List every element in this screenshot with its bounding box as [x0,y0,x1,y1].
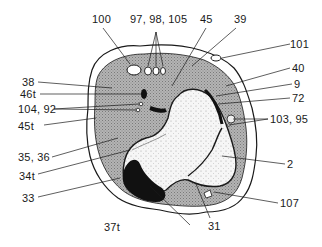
label-34t: 34t [19,170,35,182]
label-38: 38 [22,76,35,88]
label-72: 72 [292,92,305,104]
label-2: 2 [287,158,293,170]
label-104-92: 104, 92 [18,103,56,115]
label-46t: 46t [20,88,36,100]
label-45t: 45t [18,120,34,132]
label-97-98-105: 97, 98, 105 [130,13,187,25]
cross-section-diagram: 100 97, 98, 105 45 39 101 40 9 72 103, 9… [0,0,322,247]
label-107: 107 [280,197,299,209]
label-45: 45 [200,13,213,25]
label-101: 101 [290,38,309,50]
label-9: 9 [294,78,300,90]
label-35-36: 35, 36 [18,151,50,163]
label-39: 39 [234,13,247,25]
label-31: 31 [208,220,221,232]
label-33: 33 [22,192,35,204]
label-37t: 37t [104,221,120,233]
label-100: 100 [92,13,111,25]
label-40: 40 [292,62,305,74]
label-103-95: 103, 95 [270,113,308,125]
